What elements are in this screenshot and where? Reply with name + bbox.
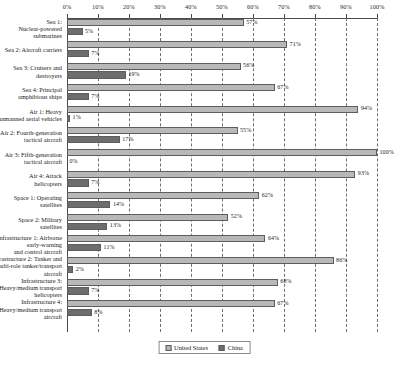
- bar-row: 67%7%: [67, 83, 377, 105]
- bar-value-china: 7%: [91, 179, 99, 185]
- bar-value-china: 7%: [91, 93, 99, 99]
- bar-value-china: 7%: [91, 50, 99, 56]
- bar-value-china: 0%: [70, 158, 78, 164]
- bar-china: [67, 201, 110, 208]
- bar-row: 86%2%: [67, 256, 377, 278]
- legend-label-united-states: United States: [174, 344, 208, 351]
- bar-united-states: [67, 149, 377, 156]
- bar-china: [67, 179, 89, 186]
- category-label: Air 1: Heavy unmanned aerial vehicles: [0, 108, 62, 122]
- bar-value-china: 1%: [73, 114, 81, 120]
- category-label: Infrastructure 2: Tanker and multi-role …: [0, 255, 62, 277]
- category-label: Sea 2: Aircraft carriers: [0, 46, 62, 53]
- bar-value-united-states: 62%: [262, 192, 273, 198]
- bar-row: 100%0%: [67, 148, 377, 170]
- bar-value-united-states: 71%: [290, 41, 301, 47]
- bar-united-states: [67, 19, 244, 26]
- x-axis-tick-labels: 0%10%20%30%40%50%60%70%80%90%100%: [0, 0, 409, 18]
- bar-united-states: [67, 235, 265, 242]
- bar-value-united-states: 86%: [336, 257, 347, 263]
- bar-row: 56%19%: [67, 61, 377, 83]
- bar-united-states: [67, 63, 241, 70]
- bar-value-united-states: 52%: [231, 213, 242, 219]
- bar-united-states: [67, 257, 334, 264]
- x-tick-label: 50%: [216, 3, 228, 10]
- x-tick-label: 30%: [154, 3, 166, 10]
- category-label: Space 2: Military satellites: [0, 216, 62, 230]
- bar-value-china: 8%: [94, 309, 102, 315]
- bar-china: [67, 287, 89, 294]
- bar-value-united-states: 67%: [277, 84, 288, 90]
- category-label: Infrastructure 4: Heavy/medium transport…: [0, 298, 62, 320]
- legend-swatch-united-states: [165, 345, 171, 351]
- bar-row: 55%17%: [67, 126, 377, 148]
- bar-china: [67, 28, 83, 35]
- category-label: Air 2: Fourth-generation tactical aircra…: [0, 129, 62, 143]
- bar-value-united-states: 93%: [358, 170, 369, 176]
- legend-label-china: China: [228, 344, 243, 351]
- bar-united-states: [67, 192, 259, 199]
- bar-united-states: [67, 127, 238, 134]
- x-tick-label: 0%: [63, 3, 72, 10]
- x-tick-label: 70%: [278, 3, 290, 10]
- bar-row: 64%11%: [67, 234, 377, 256]
- bar-china: [67, 244, 101, 251]
- x-tick-label: 20%: [123, 3, 135, 10]
- bar-united-states: [67, 279, 278, 286]
- bar-value-china: 11%: [104, 244, 115, 250]
- bar-value-china: 14%: [113, 201, 124, 207]
- bar-china: [67, 71, 126, 78]
- bar-china: [67, 223, 107, 230]
- bar-china: [67, 309, 92, 316]
- bar-china: [67, 136, 120, 143]
- x-tick-label: 40%: [185, 3, 197, 10]
- bar-row: 67%8%: [67, 299, 377, 321]
- plot-area: 57%5%71%7%56%19%67%7%94%1%55%17%100%0%93…: [67, 18, 377, 332]
- bar-value-united-states: 57%: [246, 19, 257, 25]
- bar-united-states: [67, 41, 287, 48]
- bar-value-united-states: 55%: [240, 127, 251, 133]
- category-label: Sea 1: Nuclear-powered submarines: [0, 18, 62, 40]
- bar-china: [67, 115, 70, 122]
- x-tick-label: 60%: [247, 3, 259, 10]
- bar-value-united-states: 100%: [380, 149, 394, 155]
- bar-value-china: 2%: [76, 266, 84, 272]
- bar-china: [67, 93, 89, 100]
- bar-united-states: [67, 214, 228, 221]
- chart-legend: United States China: [158, 341, 251, 354]
- bar-row: 71%7%: [67, 40, 377, 62]
- bar-value-united-states: 94%: [361, 105, 372, 111]
- x-tick-label: 90%: [340, 3, 352, 10]
- bar-row: 57%5%: [67, 18, 377, 40]
- bar-row: 94%1%: [67, 104, 377, 126]
- category-label: Air 3: Fifth-generation tactical aircraf…: [0, 151, 62, 165]
- bar-value-china: 17%: [122, 136, 133, 142]
- bar-united-states: [67, 84, 275, 91]
- legend-swatch-china: [219, 345, 225, 351]
- bar-value-china: 13%: [110, 222, 121, 228]
- bar-row: 52%13%: [67, 212, 377, 234]
- x-tick-label: 80%: [309, 3, 321, 10]
- bar-united-states: [67, 106, 358, 113]
- horizontal-bar-chart: 0%10%20%30%40%50%60%70%80%90%100% 57%5%7…: [0, 0, 409, 369]
- category-label: Infrastructure 3: Heavy/medium transport…: [0, 277, 62, 299]
- gridline: [377, 18, 378, 332]
- legend-item-united-states: United States: [165, 344, 208, 351]
- category-label: Infrastructure 1: Airborne early-warning…: [0, 234, 62, 256]
- bar-value-china: 5%: [85, 28, 93, 34]
- bar-value-united-states: 68%: [280, 278, 291, 284]
- bar-value-united-states: 67%: [277, 300, 288, 306]
- category-label: Air 4: Attack helicopters: [0, 172, 62, 186]
- bar-value-china: 19%: [128, 71, 139, 77]
- bar-row: 62%14%: [67, 191, 377, 213]
- x-tick-label: 10%: [92, 3, 104, 10]
- bar-united-states: [67, 300, 275, 307]
- bar-value-united-states: 56%: [243, 62, 254, 68]
- category-label: Sea 4: Principal amphibious ships: [0, 86, 62, 100]
- legend-item-china: China: [219, 344, 243, 351]
- category-label: Space 1: Operating satellites: [0, 194, 62, 208]
- bar-value-china: 7%: [91, 287, 99, 293]
- bar-china: [67, 50, 89, 57]
- bar-china: [67, 266, 73, 273]
- bar-row: 68%7%: [67, 277, 377, 299]
